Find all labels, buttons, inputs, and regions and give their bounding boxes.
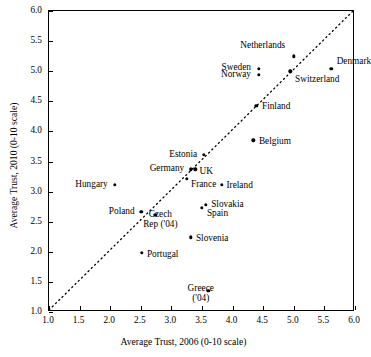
data-point-label: Denmark <box>337 56 371 66</box>
y-tick-label: 3.0 <box>14 186 42 196</box>
x-tick-label: 1.5 <box>73 315 85 325</box>
x-tick <box>355 306 356 310</box>
data-point-label: UK <box>200 166 213 176</box>
y-tick-label: 4.5 <box>14 95 42 105</box>
y-tick <box>49 101 53 102</box>
y-tick <box>49 192 53 193</box>
x-tick-label: 6.0 <box>348 315 360 325</box>
y-tick-label: 5.0 <box>14 65 42 75</box>
x-tick <box>294 306 295 310</box>
y-tick-label: 3.5 <box>14 156 42 166</box>
x-tick-label: 5.0 <box>287 315 299 325</box>
y-tick <box>49 252 53 253</box>
x-tick <box>80 306 81 310</box>
x-tick-label: 3.0 <box>165 315 177 325</box>
y-tick-label: 6.0 <box>14 5 42 15</box>
y-tick <box>49 282 53 283</box>
y-tick <box>49 71 53 72</box>
data-point-label: Belgium <box>259 136 291 146</box>
data-point-label: Norway <box>221 69 251 79</box>
x-tick <box>110 306 111 310</box>
x-axis-label: Average Trust, 2006 (0-10 scale) <box>0 336 367 347</box>
data-point-label: Greece ('04) <box>188 283 214 303</box>
y-tick <box>49 222 53 223</box>
identity-reference-line <box>49 11 353 310</box>
y-tick-label: 2.0 <box>14 246 42 256</box>
x-tick <box>233 306 234 310</box>
data-point-label: Finland <box>262 101 290 111</box>
x-tick-label: 4.5 <box>256 315 268 325</box>
x-tick-label: 4.0 <box>226 315 238 325</box>
plot-inner: NetherlandsDenmarkSwedenNorwaySwitzerlan… <box>49 11 353 310</box>
data-point-label: Netherlands <box>240 40 285 50</box>
y-tick <box>49 312 53 313</box>
data-point-label: France <box>191 179 216 189</box>
data-point-label: Estonia <box>169 149 197 159</box>
x-tick-label: 2.5 <box>134 315 146 325</box>
data-point-label: Spain <box>207 208 228 218</box>
x-tick <box>171 306 172 310</box>
x-tick-label: 5.5 <box>318 315 330 325</box>
plot-area: NetherlandsDenmarkSwedenNorwaySwitzerlan… <box>48 10 354 311</box>
data-point-label: Poland <box>109 206 135 216</box>
data-point-label: Ireland <box>226 180 252 190</box>
y-tick-label: 5.5 <box>14 35 42 45</box>
x-tick <box>202 306 203 310</box>
y-tick-label: 4.0 <box>14 125 42 135</box>
x-tick-label: 3.5 <box>195 315 207 325</box>
y-tick <box>49 11 53 12</box>
y-tick <box>49 41 53 42</box>
data-point-label: Czech Rep ('04) <box>143 209 177 229</box>
y-tick-label: 2.5 <box>14 216 42 226</box>
y-tick-label: 1.0 <box>14 306 42 316</box>
y-tick <box>49 131 53 132</box>
data-point-label: Switzerland <box>295 74 339 84</box>
x-tick-label: 1.0 <box>42 315 54 325</box>
x-tick <box>324 306 325 310</box>
data-point-label: Portugal <box>147 249 179 259</box>
x-tick <box>141 306 142 310</box>
x-tick-label: 2.0 <box>103 315 115 325</box>
data-point-label: Germany <box>150 163 185 173</box>
data-point-label: Hungary <box>75 179 108 189</box>
y-tick-label: 1.5 <box>14 276 42 286</box>
data-point-label: Slovenia <box>196 233 229 243</box>
y-tick <box>49 162 53 163</box>
x-tick <box>49 306 50 310</box>
x-tick <box>263 306 264 310</box>
